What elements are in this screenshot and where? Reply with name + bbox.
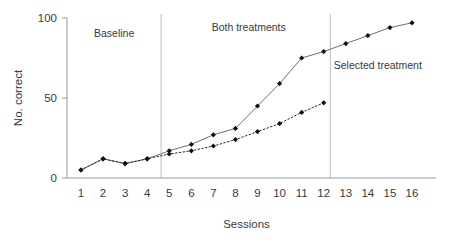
data-point-dotted-series-1 — [78, 167, 83, 172]
y-tick-label: 50 — [44, 92, 57, 104]
x-tick-group: 12345678910111213141516 — [78, 187, 419, 199]
annotation-both-treatments: Both treatments — [212, 21, 286, 33]
series-line-dotted-series — [81, 103, 324, 170]
data-point-solid-series-16 — [409, 20, 414, 25]
x-tick-label: 13 — [339, 187, 352, 199]
x-tick-label: 12 — [317, 187, 330, 199]
phase-divider-group — [161, 14, 330, 178]
data-point-dotted-series-2 — [100, 156, 105, 161]
data-point-dotted-series-7 — [211, 143, 216, 148]
data-point-dotted-series-12 — [321, 100, 326, 105]
data-point-solid-series-6 — [189, 142, 194, 147]
chart-container: 050100 12345678910111213141516 BaselineB… — [0, 0, 449, 243]
x-tick-label: 7 — [210, 187, 216, 199]
x-tick-label: 11 — [296, 187, 308, 199]
data-point-dotted-series-5 — [167, 151, 172, 156]
x-tick-label: 2 — [100, 187, 106, 199]
marker-group — [78, 20, 414, 172]
x-tick-label: 9 — [254, 187, 260, 199]
y-tick-label: 100 — [38, 12, 57, 24]
x-axis-title: Sessions — [223, 218, 270, 230]
annotation-selected-treatment: Selected treatment — [334, 59, 422, 71]
y-tick-group: 050100 — [38, 12, 67, 184]
data-point-dotted-series-9 — [255, 129, 260, 134]
data-point-solid-series-7 — [211, 132, 216, 137]
x-tick-label: 10 — [273, 187, 286, 199]
y-tick-label: 0 — [51, 172, 57, 184]
x-tick-label: 16 — [406, 187, 419, 199]
x-tick-label: 8 — [232, 187, 238, 199]
x-tick-label: 14 — [361, 187, 374, 199]
data-point-dotted-series-10 — [277, 121, 282, 126]
annotation-baseline: Baseline — [94, 27, 134, 39]
data-point-solid-series-13 — [343, 41, 348, 46]
data-point-dotted-series-4 — [145, 156, 150, 161]
data-point-dotted-series-3 — [123, 161, 128, 166]
data-point-solid-series-14 — [365, 33, 370, 38]
data-point-solid-series-15 — [387, 25, 392, 30]
data-point-dotted-series-11 — [299, 110, 304, 115]
x-tick-label: 4 — [144, 187, 151, 199]
axis-group — [67, 18, 436, 178]
x-tick-label: 3 — [122, 187, 128, 199]
annotation-group: BaselineBoth treatmentsSelected treatmen… — [94, 21, 422, 71]
x-tick-label: 5 — [166, 187, 172, 199]
series-line-solid-series — [81, 23, 412, 170]
x-tick-label: 6 — [188, 187, 194, 199]
data-point-dotted-series-6 — [189, 148, 194, 153]
series-group — [81, 23, 412, 170]
y-axis-title: No. correct — [12, 69, 24, 126]
x-tick-label: 1 — [78, 187, 84, 199]
data-point-solid-series-12 — [321, 49, 326, 54]
x-tick-label: 15 — [384, 187, 397, 199]
data-point-dotted-series-8 — [233, 137, 238, 142]
line-chart: 050100 12345678910111213141516 BaselineB… — [0, 0, 449, 243]
